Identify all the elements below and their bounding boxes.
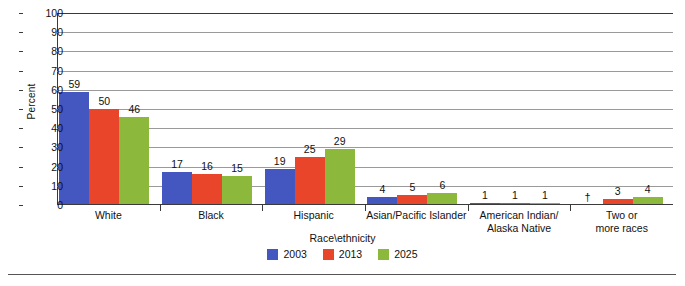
y-axis-tick-mark: [19, 167, 23, 168]
bar-group: 171615: [162, 13, 252, 205]
bar-fill: [59, 92, 89, 205]
bar-fill: [192, 174, 222, 205]
bar-value-label: 5: [409, 181, 415, 193]
bar-value-label: 3: [615, 185, 621, 197]
bar[interactable]: 1: [500, 13, 530, 205]
y-axis-tick-label: 40: [23, 122, 63, 134]
y-axis-tick-mark: [19, 109, 23, 110]
bar-value-label: 4: [379, 183, 385, 195]
y-axis-tick-label: 20: [23, 161, 63, 173]
bar[interactable]: †: [573, 13, 603, 205]
bar[interactable]: 6: [427, 13, 457, 205]
bar-group: 111: [470, 13, 560, 205]
bar-value-label: 4: [645, 183, 651, 195]
x-axis-title: Race\ethnicity: [0, 232, 685, 244]
legend-label: 2013: [339, 248, 362, 260]
legend-swatch: [267, 249, 278, 260]
y-axis-tick-mark: [19, 90, 23, 91]
footer-divider: [8, 274, 676, 275]
bar-group-bars: †34: [573, 13, 663, 205]
bar-fill: [325, 149, 355, 205]
y-axis-tick-label: 80: [23, 45, 63, 57]
y-axis-tick-mark: [19, 71, 23, 72]
bar-value-label: 15: [231, 162, 243, 174]
legend-item[interactable]: 2025: [378, 248, 417, 260]
bar-group-bars: 456: [367, 13, 457, 205]
y-axis-tick-mark: [19, 147, 23, 148]
bar-fill: [119, 117, 149, 205]
bar[interactable]: 15: [222, 13, 252, 205]
bar-group-bars: 595046: [59, 13, 149, 205]
bar-fill: [265, 169, 295, 205]
y-axis-tick-label: 50: [23, 103, 63, 115]
bar-value-label: 50: [98, 95, 110, 107]
y-axis-tick-label: 100: [23, 7, 63, 19]
bar-value-label: 25: [304, 143, 316, 155]
y-axis-tick-label: 10: [23, 180, 63, 192]
bar-value-label: †: [585, 191, 591, 203]
bar-value-label: 1: [482, 189, 488, 201]
bar-value-label: 1: [512, 189, 518, 201]
bar[interactable]: 3: [603, 13, 633, 205]
bar[interactable]: 59: [59, 13, 89, 205]
y-axis-tick-label: 90: [23, 26, 63, 38]
bar-value-label: 6: [439, 179, 445, 191]
bar[interactable]: 5: [397, 13, 427, 205]
bar[interactable]: 29: [325, 13, 355, 205]
bar[interactable]: 46: [119, 13, 149, 205]
legend-item[interactable]: 2013: [323, 248, 362, 260]
bar-value-label: 59: [68, 78, 80, 90]
bar-fill: [162, 172, 192, 205]
bar-value-label: 19: [274, 155, 286, 167]
legend-item[interactable]: 2003: [267, 248, 306, 260]
bar-group: 595046: [59, 13, 149, 205]
bar[interactable]: 1: [530, 13, 560, 205]
bar[interactable]: 25: [295, 13, 325, 205]
legend-label: 2025: [394, 248, 417, 260]
bar-group-bars: 171615: [162, 13, 252, 205]
bar-value-label: 17: [171, 158, 183, 170]
y-axis-tick-mark: [19, 51, 23, 52]
y-axis-tick-label: 60: [23, 84, 63, 96]
plot-area: 595046171615192529456111†34: [57, 13, 673, 205]
bar[interactable]: 16: [192, 13, 222, 205]
bar-fill: [295, 157, 325, 205]
legend-swatch: [378, 249, 389, 260]
y-axis-tick-mark: [19, 128, 23, 129]
bar-value-label: 1: [542, 189, 548, 201]
bar-group: 456: [367, 13, 457, 205]
bar[interactable]: 4: [367, 13, 397, 205]
bar[interactable]: 50: [89, 13, 119, 205]
bar[interactable]: 1: [470, 13, 500, 205]
y-axis-tick-mark: [19, 186, 23, 187]
bar-value-label: 16: [201, 160, 213, 172]
y-axis-tick-mark: [19, 32, 23, 33]
chart-legend: 200320132025: [0, 248, 685, 260]
bar-group: 192529: [265, 13, 355, 205]
bar-fill: [89, 109, 119, 205]
bar[interactable]: 4: [633, 13, 663, 205]
x-axis-category-label: Two or more races: [547, 209, 685, 234]
bar-group-bars: 111: [470, 13, 560, 205]
bar-chart-figure: Percent 595046171615192529456111†34 1009…: [0, 0, 685, 286]
bar[interactable]: 17: [162, 13, 192, 205]
bar-value-label: 29: [334, 135, 346, 147]
y-axis-tick-mark: [19, 205, 23, 206]
y-axis-tick-label: 70: [23, 65, 63, 77]
y-axis-tick-label: 30: [23, 141, 63, 153]
y-axis-tick-mark: [19, 13, 23, 14]
bar-group-bars: 192529: [265, 13, 355, 205]
bar-fill: [222, 176, 252, 205]
bar-value-label: 46: [128, 103, 140, 115]
x-axis-line: [57, 204, 673, 205]
bar-group: †34: [573, 13, 663, 205]
legend-swatch: [323, 249, 334, 260]
legend-label: 2003: [283, 248, 306, 260]
bar[interactable]: 19: [265, 13, 295, 205]
